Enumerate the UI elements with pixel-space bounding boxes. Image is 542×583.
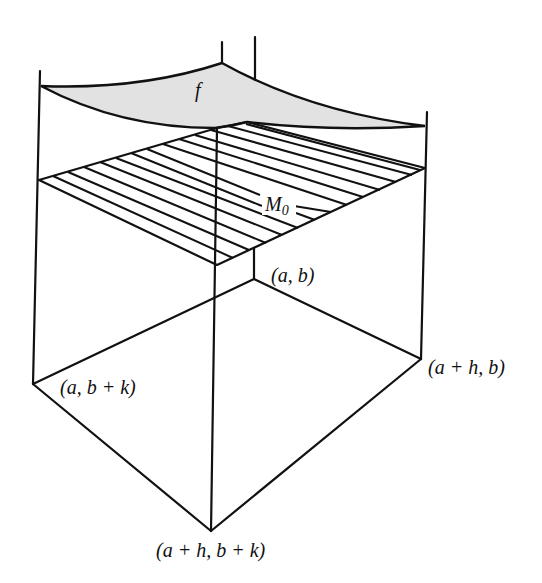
base-edge-back-left xyxy=(33,279,254,384)
plane-label-sub: 0 xyxy=(282,203,289,218)
diagram-canvas: f M0 (a, b) (a, b + k) (a + h, b) (a + h… xyxy=(0,0,542,583)
base-edge-front-right xyxy=(211,359,421,531)
plane-m0-hatching xyxy=(53,124,420,258)
point-label-ah-bk: (a + h, b + k) xyxy=(156,539,266,562)
plane-label-m: M xyxy=(264,193,283,215)
point-label-a-bk: (a, b + k) xyxy=(60,376,136,399)
post-left xyxy=(33,71,40,384)
surface-f xyxy=(41,63,425,128)
post-right xyxy=(421,112,427,359)
point-label-ah-b: (a + h, b) xyxy=(428,356,505,379)
point-label-a-b: (a, b) xyxy=(271,264,315,287)
base-edge-front-left xyxy=(33,384,211,531)
base-edge-back-right xyxy=(254,279,421,359)
